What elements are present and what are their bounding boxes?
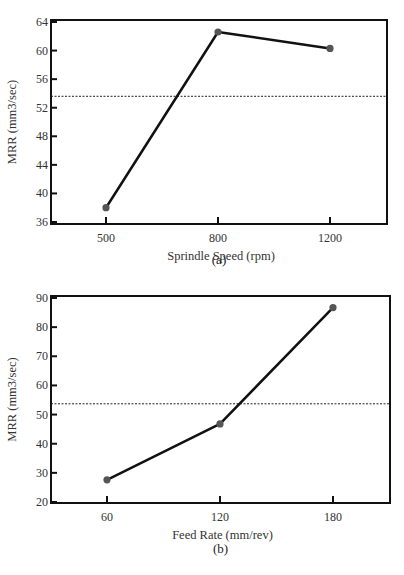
chart-panel-a: 36404448525660645008001200Sprindle Speed… [5,15,387,267]
data-point-marker [214,28,221,35]
y-tick-label: 36 [36,215,48,229]
plot-frame [51,20,387,224]
panel-caption: (b) [213,541,228,556]
panel-caption: (a) [212,252,226,267]
y-tick-label: 44 [36,158,48,172]
y-axis-label: MRR (mm3/sec) [5,80,19,164]
y-tick-label: 20 [36,495,48,509]
data-point-marker [329,304,336,311]
figure: 36404448525660645008001200Sprindle Speed… [0,0,404,575]
y-tick-label: 60 [36,378,48,392]
y-tick-label: 48 [36,129,48,143]
data-point-marker [102,204,109,211]
x-tick-label: 800 [209,231,227,245]
y-tick-label: 64 [36,15,48,29]
y-tick-label: 52 [36,101,48,115]
x-tick-label: 180 [324,510,342,524]
y-tick-label: 70 [36,349,48,363]
y-tick-label: 60 [36,44,48,58]
y-tick-label: 30 [36,466,48,480]
y-tick-label: 40 [36,437,48,451]
y-axis-label: MRR (mm3/sec) [5,357,19,441]
chart-panel-b: 203040506070809060120180Feed Rate (mm/re… [5,291,390,556]
data-point-marker [216,420,223,427]
y-tick-label: 56 [36,72,48,86]
data-series-line [106,32,330,208]
y-tick-label: 90 [36,291,48,305]
plot-frame [51,296,390,503]
x-axis-label: Feed Rate (mm/rev) [172,528,273,542]
y-tick-label: 80 [36,320,48,334]
x-tick-label: 1200 [318,231,342,245]
x-tick-label: 500 [97,231,115,245]
x-tick-label: 120 [211,510,229,524]
data-series-line [107,308,333,480]
data-point-marker [103,476,110,483]
x-tick-label: 60 [101,510,113,524]
y-tick-label: 40 [36,186,48,200]
y-tick-label: 50 [36,408,48,422]
data-point-marker [326,45,333,52]
